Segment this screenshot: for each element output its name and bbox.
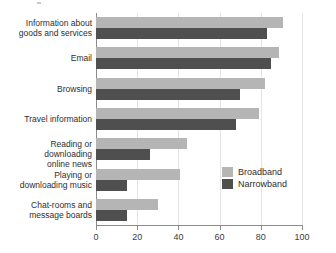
gridline [261, 13, 262, 225]
x-axis-tick-label: 0 [81, 232, 111, 243]
bar-broadband [96, 199, 158, 210]
category-label-line: Travel information [2, 114, 92, 124]
bar-chart: Information aboutgoods and servicesEmail… [0, 0, 336, 253]
category-label-line: Chat-rooms and [2, 200, 92, 210]
x-axis-tick [261, 226, 262, 230]
plot-area [96, 13, 302, 225]
category-label: Playing ordownloading music [2, 170, 92, 190]
x-axis-tick-label: 60 [205, 232, 235, 243]
category-label-line: online news [2, 159, 92, 169]
x-axis-tick [137, 226, 138, 230]
x-axis-tick [96, 226, 97, 230]
category-label: Reading or downloadingonline news [2, 139, 92, 169]
category-label: Information aboutgoods and services [2, 18, 92, 38]
bar-narrowband [96, 149, 150, 160]
legend-label: Narrowband [238, 179, 287, 189]
gridline [302, 13, 303, 225]
x-axis-tick-label: 40 [163, 232, 193, 243]
bar-broadband [96, 47, 279, 58]
category-label: Travel information [2, 114, 92, 124]
legend-item: Narrowband [222, 178, 287, 189]
category-label-line: Browsing [2, 84, 92, 94]
category-label-line: downloading music [2, 180, 92, 190]
bar-narrowband [96, 89, 240, 100]
bar-narrowband [96, 210, 127, 221]
category-label: Chat-rooms andmessage boards [2, 200, 92, 220]
chart-legend: BroadbandNarrowband [222, 166, 287, 190]
x-axis-tick [220, 226, 221, 230]
category-label-line: Playing or [2, 170, 92, 180]
x-axis-tick [178, 226, 179, 230]
x-axis-tick-label: 20 [122, 232, 152, 243]
legend-item: Broadband [222, 166, 287, 177]
legend-swatch-narrowband [222, 179, 233, 189]
category-axis-labels: Information aboutgoods and servicesEmail… [0, 13, 92, 225]
category-label-line: message boards [2, 210, 92, 220]
category-label-line: Information about [2, 18, 92, 28]
bar-broadband [96, 17, 283, 28]
x-axis-tick-label: 80 [246, 232, 276, 243]
bar-narrowband [96, 28, 267, 39]
x-axis-tick-label: 100 [287, 232, 317, 243]
bar-narrowband [96, 180, 127, 191]
bar-broadband [96, 78, 265, 89]
legend-swatch-broadband [222, 167, 233, 177]
bar-broadband [96, 169, 180, 180]
scan-artifact-speck [37, 2, 41, 4]
bar-broadband [96, 138, 187, 149]
category-label: Browsing [2, 84, 92, 94]
legend-label: Broadband [238, 167, 282, 177]
category-label-line: Email [2, 53, 92, 63]
category-label-line: Reading or downloading [2, 139, 92, 159]
bar-narrowband [96, 119, 236, 130]
bar-narrowband [96, 58, 271, 69]
x-axis-tick [302, 226, 303, 230]
x-axis-line [96, 225, 303, 226]
category-label-line: goods and services [2, 28, 92, 38]
category-label: Email [2, 53, 92, 63]
bar-broadband [96, 108, 259, 119]
